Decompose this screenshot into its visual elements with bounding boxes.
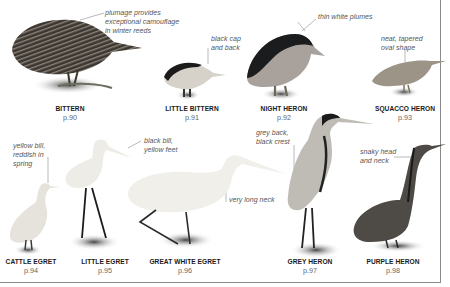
squacco-heron-caption: SQUACCO HERON p.93 (365, 105, 445, 122)
squacco-heron-illustration (370, 55, 450, 100)
little-bittern-annotation: black cap and back (211, 34, 241, 52)
species-name: LITTLE BITTERN (155, 105, 229, 113)
cattle-egret-annotation: yellow bill, reddish in spring (13, 141, 45, 168)
cattle-egret-caption: CATTLE EGRET p.94 (0, 258, 62, 275)
cattle-egret-illustration (6, 178, 56, 258)
bittern-annotation: plumage provides exceptional camouflage … (105, 8, 179, 35)
little-bittern-illustration (158, 53, 228, 103)
species-name: SQUACCO HERON (368, 105, 442, 113)
species-name: LITTLE EGRET (76, 258, 133, 266)
great-white-egret-annotation: very long neck (229, 195, 275, 204)
page-reference[interactable]: p.91 (156, 114, 228, 122)
page-reference[interactable]: p.94 (3, 267, 59, 275)
species-name: CATTLE EGRET (2, 258, 59, 266)
field-guide-page: plumage provides exceptional camouflage … (0, 0, 450, 287)
page-reference[interactable]: p.98 (362, 267, 425, 275)
page-reference[interactable]: p.90 (34, 114, 106, 122)
little-bittern-caption: LITTLE BITTERN p.91 (152, 105, 232, 122)
page-reference[interactable]: p.96 (145, 267, 226, 275)
page-reference[interactable]: p.93 (369, 114, 441, 122)
night-heron-illustration (245, 28, 320, 103)
great-white-egret-caption: GREAT WHITE EGRET p.96 (140, 258, 230, 275)
grey-heron-caption: GREY HERON p.97 (280, 258, 340, 275)
purple-heron-annotation: snaky head and neck (360, 147, 396, 165)
page-reference[interactable]: p.97 (283, 267, 337, 275)
grey-heron-annotation: grey back, black crest (256, 128, 290, 146)
night-heron-annotation: thin white plumes (318, 12, 373, 21)
species-name: GREY HERON (282, 258, 337, 266)
species-name: PURPLE HERON (361, 258, 425, 266)
little-egret-caption: LITTLE EGRET p.95 (74, 258, 136, 275)
species-name: GREAT WHITE EGRET (144, 258, 227, 266)
page-reference[interactable]: p.95 (77, 267, 133, 275)
squacco-heron-annotation: neat, tapered oval shape (381, 34, 423, 52)
purple-heron-caption: PURPLE HERON p.98 (358, 258, 428, 275)
bittern-caption: BITTERN p.90 (30, 105, 110, 122)
species-name: BITTERN (33, 105, 107, 113)
